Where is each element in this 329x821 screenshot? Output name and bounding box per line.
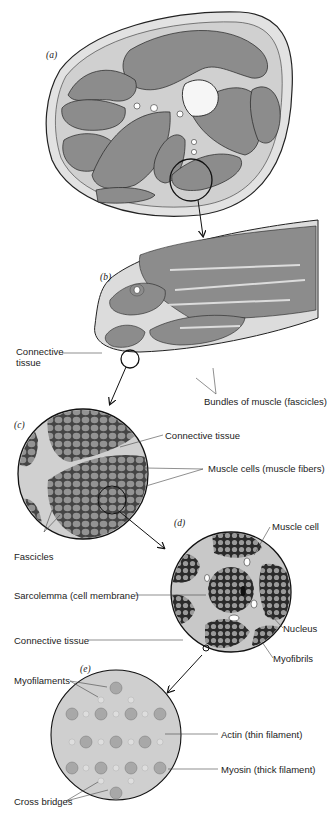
label-muscle-cell: Muscle cell [272,521,319,532]
panel-a-limb-cross-section [46,12,292,236]
panel-e-myofilaments [51,670,218,801]
panel-b-muscle-section [62,220,318,404]
panel-label-a: (a) [46,50,57,60]
bone [182,80,218,116]
label-cross-bridges: Cross bridges [14,796,73,807]
label-myosin: Myosin (thick filament) [221,764,316,775]
label-myofilaments: Myofilaments [14,675,70,686]
zoom-circle-b [121,350,139,368]
label-myofibrils: Myofibrils [273,653,313,664]
label-connective-tissue-b-2: tissue [16,357,41,368]
label-sarcolemma: Sarcolemma (cell membrane) [14,590,139,601]
label-actin: Actin (thin filament) [221,729,302,740]
label-muscle-cells: Muscle cells (muscle fibers) [208,463,325,474]
panel-label-b: (b) [100,272,111,282]
label-bundles-fascicles: Bundles of muscle (fascicles) [204,396,327,407]
label-nucleus: Nucleus [283,623,317,634]
panel-label-d: (d) [174,518,185,528]
panel-label-e: (e) [80,664,91,674]
label-connective-tissue-b-1: Connective [16,346,64,357]
panel-d-muscle-cell [88,527,295,692]
label-fascicles: Fascicles [14,551,54,562]
label-connective-tissue-c: Connective tissue [165,430,240,441]
muscle-structure-diagram [0,0,329,821]
label-connective-tissue-d: Connective tissue [14,635,89,646]
panel-label-c: (c) [14,420,25,430]
